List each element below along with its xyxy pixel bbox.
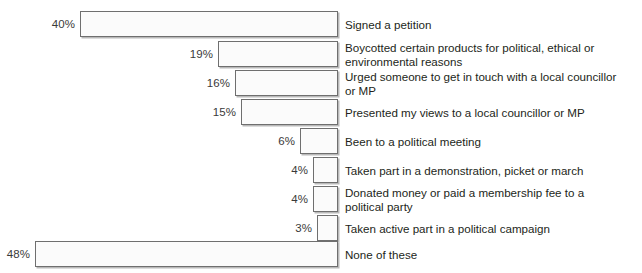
bar-value-label: 4% xyxy=(0,157,308,183)
bar-value-label: 19% xyxy=(0,41,213,67)
bar-category-label: Taken part in a demonstration, picket or… xyxy=(345,164,641,178)
bar-rect xyxy=(235,70,338,96)
bar-category-label: Been to a political meeting xyxy=(345,135,641,149)
bar-category-label: Donated money or paid a membership fee t… xyxy=(345,186,641,213)
bar-value-label: 3% xyxy=(0,215,312,241)
bar-value-label: 15% xyxy=(0,99,236,125)
bar-value-label: 48% xyxy=(0,241,30,267)
bar-value-label: 40% xyxy=(0,11,75,37)
bar-category-label: None of these xyxy=(345,248,641,262)
bar-value-label: 16% xyxy=(0,70,230,96)
bar-rect xyxy=(313,157,338,183)
bar-rect xyxy=(313,186,338,212)
horizontal-bar-chart: 40% Signed a petition 19% Boycotted cert… xyxy=(0,0,642,273)
bar-rect xyxy=(35,241,338,267)
bar-rect xyxy=(218,41,338,67)
bar-category-label: Signed a petition xyxy=(345,18,641,32)
bar-category-label: Urged someone to get in touch with a loc… xyxy=(345,70,641,97)
bar-rect xyxy=(317,215,338,241)
bar-rect xyxy=(300,128,338,154)
bar-value-label: 4% xyxy=(0,186,308,212)
bar-rect xyxy=(80,11,338,37)
bar-category-label: Presented my views to a local councillor… xyxy=(345,106,641,120)
bar-category-label: Taken active part in a political campaig… xyxy=(345,222,641,236)
bar-value-label: 6% xyxy=(0,128,295,154)
bar-category-label: Boycotted certain products for political… xyxy=(345,41,641,68)
bar-rect xyxy=(241,99,338,125)
